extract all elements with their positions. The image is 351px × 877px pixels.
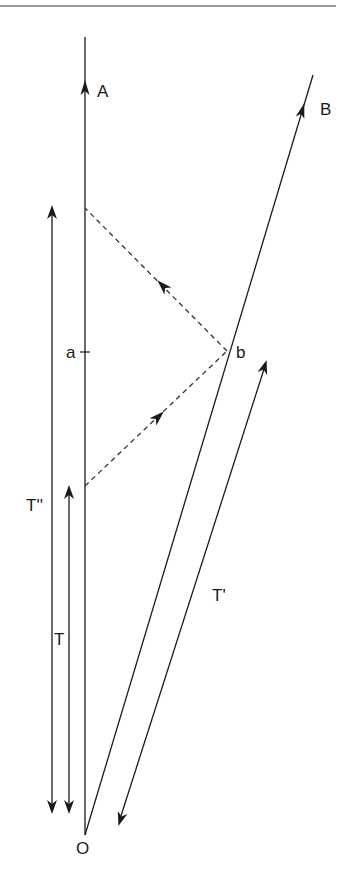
worldline-a [80,37,90,835]
interval-t-prime [114,359,272,828]
signal-return [85,208,227,351]
label-b-lower: b [236,343,245,362]
spacetime-diagram: A B a b T'' T T' O [0,0,351,877]
signal-outgoing [85,351,227,486]
label-origin: O [76,839,89,858]
worldline-b [85,75,313,835]
arrow-up-icon [296,102,309,119]
label-t-double-prime: T'' [26,496,43,515]
label-a-lower: a [66,343,76,362]
label-b-upper: B [320,100,331,119]
label-a-upper: A [97,82,109,101]
interval-t-double-prime [47,205,57,814]
label-t: T [54,630,64,649]
arrow-down-icon [114,811,128,827]
label-t-prime: T' [212,586,226,605]
interval-t [64,485,74,814]
arrow-up-icon [258,359,272,375]
